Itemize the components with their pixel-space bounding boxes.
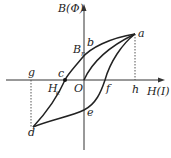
label-g: g	[28, 66, 35, 79]
label-d: d	[28, 126, 35, 139]
label-e: e	[87, 106, 94, 119]
label-a: a	[138, 27, 145, 40]
coercivity-subscript: c	[56, 89, 60, 97]
remanence-label: B	[72, 43, 81, 56]
label-f: f	[105, 82, 112, 95]
y-axis-label: B(Φ)	[57, 2, 84, 15]
label-b: b	[87, 36, 94, 49]
label-c: c	[58, 67, 64, 80]
x-axis-label: H(I)	[146, 85, 170, 98]
label-h: h	[132, 83, 139, 96]
origin-label: O	[74, 82, 83, 95]
hysteresis-diagram: B(Φ) H(I) O a b c d e f g h B r H c	[0, 0, 171, 158]
h-axis-arrow-icon	[158, 78, 165, 83]
